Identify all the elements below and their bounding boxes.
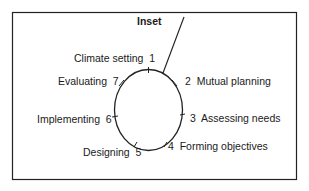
step-6-label: Implementing 6: [37, 113, 112, 125]
step-5-label: Designing 5: [83, 146, 141, 158]
inset-pointer-line: [163, 17, 184, 73]
step-ticks: [112, 67, 185, 147]
step-7-label: Evaluating 7: [58, 75, 119, 87]
cycle-diagram: [0, 0, 309, 191]
step-4-label: 4 Forming objectives: [168, 140, 268, 152]
step-2-label: 2 Mutual planning: [185, 75, 271, 87]
step-1-label: Climate setting 1: [74, 52, 155, 64]
cycle-circle: [115, 70, 183, 151]
frame-border: [13, 13, 297, 180]
inset-label: Inset: [137, 15, 162, 27]
step-3-label: 3 Assessing needs: [190, 112, 280, 124]
